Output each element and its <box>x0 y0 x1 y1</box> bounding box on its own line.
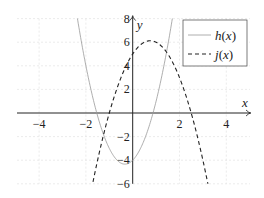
legend-label-j: j(x) <box>213 47 233 62</box>
y-tick-label: −4 <box>117 153 130 167</box>
x-tick-label: −4 <box>33 117 46 131</box>
plot-svg: xy −4−224−6−4−22468 h(x)j(x) <box>0 0 264 198</box>
y-axis-label: y <box>135 17 143 32</box>
x-tick-label: 4 <box>223 117 229 131</box>
function-plot: xy −4−224−6−4−22468 h(x)j(x) <box>0 0 264 198</box>
legend-label-h: h(x) <box>215 28 236 43</box>
x-tick-label: 2 <box>177 117 183 131</box>
y-tick-label: −2 <box>117 130 130 144</box>
y-tick-label: 6 <box>124 35 130 49</box>
legend: h(x)j(x) <box>183 20 247 66</box>
y-tick-label: 8 <box>124 12 130 26</box>
x-tick-label: −2 <box>80 117 93 131</box>
y-tick-label: −6 <box>117 177 130 191</box>
x-axis-label: x <box>241 95 248 110</box>
y-tick-label: 2 <box>124 82 130 96</box>
